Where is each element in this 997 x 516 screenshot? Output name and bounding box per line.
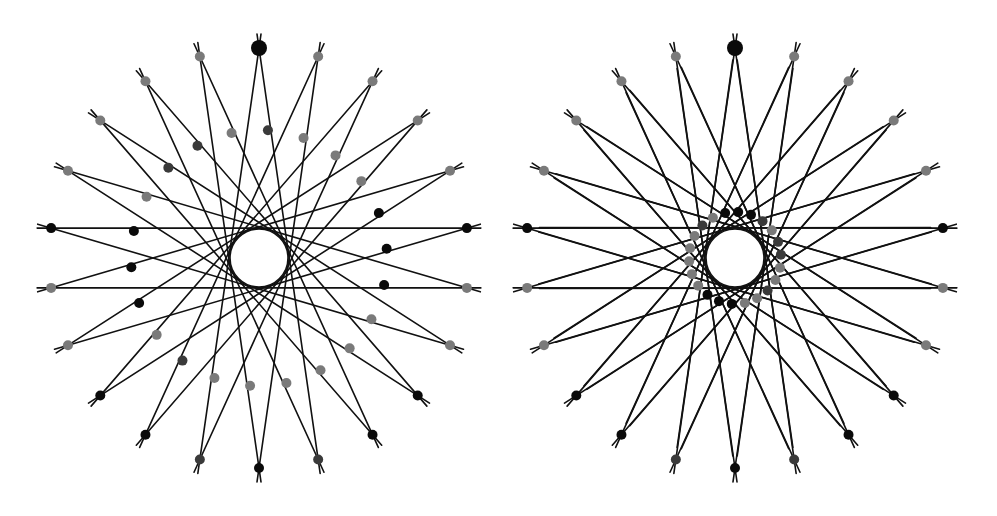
intersection-marker — [697, 221, 707, 231]
outer-point — [63, 166, 73, 176]
intersection-marker — [192, 141, 202, 151]
tangent-line — [136, 110, 427, 445]
intersection-marker — [331, 150, 341, 160]
outer-point — [539, 340, 549, 350]
outer-point — [938, 283, 948, 293]
intersection-marker — [763, 285, 773, 295]
intersection-marker — [693, 281, 703, 291]
figure — [0, 0, 997, 516]
intersection-marker — [126, 262, 136, 272]
outer-point — [413, 115, 423, 125]
intersection-marker — [263, 125, 273, 135]
intersection-marker — [374, 208, 384, 218]
outer-point — [140, 430, 150, 440]
outer-point — [63, 340, 73, 350]
outer-point — [46, 283, 56, 293]
intersection-marker — [740, 298, 750, 308]
diagram-canvas — [0, 0, 997, 516]
outer-point — [844, 76, 854, 86]
intersection-marker — [702, 290, 712, 300]
inner-circle — [230, 229, 288, 287]
intersection-marker — [773, 237, 783, 247]
intersection-marker — [775, 263, 785, 273]
intersection-marker — [746, 210, 756, 220]
outer-point — [445, 166, 455, 176]
outer-point — [921, 166, 931, 176]
intersection-marker — [245, 381, 255, 391]
intersection-marker — [770, 275, 780, 285]
intersection-marker — [685, 243, 695, 253]
tangent-line — [91, 110, 382, 445]
outer-point — [921, 340, 931, 350]
right-diagram — [513, 34, 957, 482]
outer-point — [844, 430, 854, 440]
intersection-marker — [356, 176, 366, 186]
outer-point — [571, 391, 581, 401]
outer-point — [462, 223, 472, 233]
intersection-marker — [152, 330, 162, 340]
outer-point — [671, 454, 681, 464]
intersection-marker — [345, 343, 355, 353]
intersection-marker — [382, 244, 392, 254]
intersection-marker — [379, 280, 389, 290]
intersection-marker — [227, 128, 237, 138]
outer-point — [671, 52, 681, 62]
intersection-marker — [316, 365, 326, 375]
intersection-marker — [177, 356, 187, 366]
intersection-marker — [366, 314, 376, 324]
intersection-marker — [687, 269, 697, 279]
top-point — [727, 40, 743, 56]
intersection-marker — [299, 133, 309, 143]
outer-point — [522, 283, 532, 293]
tangent-line — [532, 127, 883, 353]
intersection-marker — [714, 296, 724, 306]
outer-point — [539, 166, 549, 176]
intersection-marker — [752, 293, 762, 303]
intersection-marker — [142, 192, 152, 202]
intersection-marker — [690, 231, 700, 241]
outer-point — [413, 391, 423, 401]
outer-point — [889, 115, 899, 125]
intersection-marker — [733, 207, 743, 217]
outer-point — [140, 76, 150, 86]
outer-point — [195, 454, 205, 464]
tangent-line — [91, 71, 382, 406]
tangent-line — [567, 110, 840, 426]
outer-point — [789, 52, 799, 62]
intersection-marker — [758, 216, 768, 226]
intersection-marker — [767, 225, 777, 235]
outer-point — [313, 454, 323, 464]
tangent-line — [136, 71, 427, 406]
outer-point — [95, 391, 105, 401]
intersection-marker — [163, 163, 173, 173]
outer-point — [730, 463, 740, 473]
intersection-marker — [708, 213, 718, 223]
intersection-marker — [281, 378, 291, 388]
left-diagram — [37, 34, 481, 482]
outer-point — [254, 463, 264, 473]
outer-point — [938, 223, 948, 233]
outer-point — [616, 430, 626, 440]
outer-point — [368, 76, 378, 86]
outer-point — [195, 52, 205, 62]
intersection-marker — [134, 298, 144, 308]
intersection-marker — [776, 250, 786, 260]
intersection-marker — [684, 256, 694, 266]
outer-point — [368, 430, 378, 440]
intersection-marker — [720, 208, 730, 218]
inner-circle — [706, 229, 764, 287]
intersection-marker — [209, 373, 219, 383]
outer-point — [46, 223, 56, 233]
top-point — [251, 40, 267, 56]
outer-point — [95, 115, 105, 125]
outer-point — [445, 340, 455, 350]
intersection-marker — [129, 226, 139, 236]
outer-point — [522, 223, 532, 233]
outer-point — [462, 283, 472, 293]
outer-point — [571, 115, 581, 125]
intersection-marker — [727, 299, 737, 309]
outer-point — [313, 52, 323, 62]
outer-point — [889, 391, 899, 401]
outer-point — [616, 76, 626, 86]
outer-point — [789, 454, 799, 464]
